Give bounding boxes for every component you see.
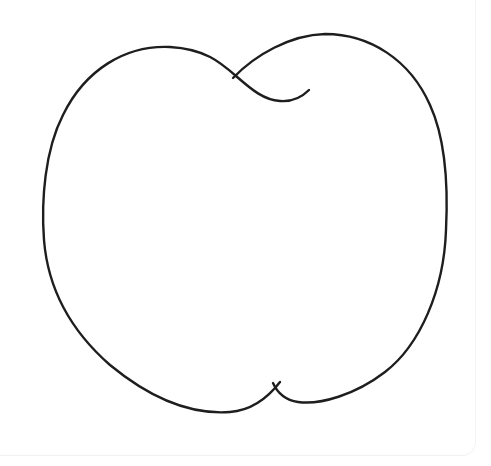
apple-top-fold-curve [236, 76, 309, 101]
apple-right-lobe-outline [233, 34, 447, 403]
apple-drawing [0, 0, 491, 466]
apple-left-lobe-outline [43, 47, 280, 412]
